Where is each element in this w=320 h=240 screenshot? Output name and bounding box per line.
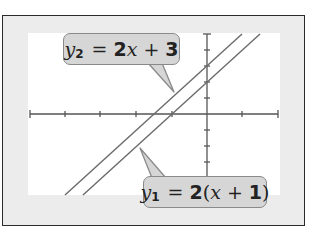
- callout-y1-open: (: [203, 181, 210, 203]
- callout-y2-plus: +: [143, 38, 159, 60]
- callout-y1-plus: +: [227, 181, 243, 203]
- callout-y2-x: x: [127, 38, 138, 60]
- callout-y2-var: y: [64, 38, 75, 60]
- callout-y1-label: y1 = 2(x + 1): [143, 176, 267, 208]
- callout-y1-var: y: [141, 181, 152, 203]
- callout-y2-sub: 2: [75, 47, 83, 61]
- callout-y2-eq: =: [92, 38, 108, 60]
- callout-y1-coef: 2: [190, 181, 203, 203]
- callout-y1-const: 1: [249, 181, 262, 203]
- callout-y1-x: x: [210, 181, 221, 203]
- callout-y2-label: y2 = 2x + 3: [63, 33, 180, 65]
- callout-y2-coef: 2: [113, 38, 126, 60]
- callout-y2-const: 3: [165, 38, 178, 60]
- callout-y1-sub: 1: [151, 190, 159, 204]
- callout-y1-close: ): [262, 181, 269, 203]
- callout-y1-eq: =: [168, 181, 184, 203]
